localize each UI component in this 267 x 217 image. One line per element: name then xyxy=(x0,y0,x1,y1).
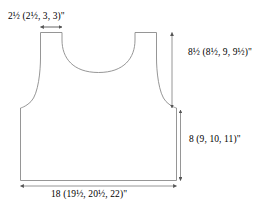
body-width-label: 18 (19½, 20½, 22)" xyxy=(51,189,127,200)
garment-outline xyxy=(21,33,177,181)
body-length-label: 8 (9, 10, 11)" xyxy=(189,134,241,145)
garment-body-path xyxy=(21,33,177,181)
armhole-depth-label: 8½ (8½, 9, 9½)" xyxy=(188,47,252,58)
garment-schematic-figure: 2½ (2½, 3, 3)" 8½ (8½, 9, 9½)" 8 (9, 10,… xyxy=(0,0,267,217)
shoulder-width-label: 2½ (2½, 3, 3)" xyxy=(8,11,65,22)
schematic-drawing xyxy=(0,0,267,217)
